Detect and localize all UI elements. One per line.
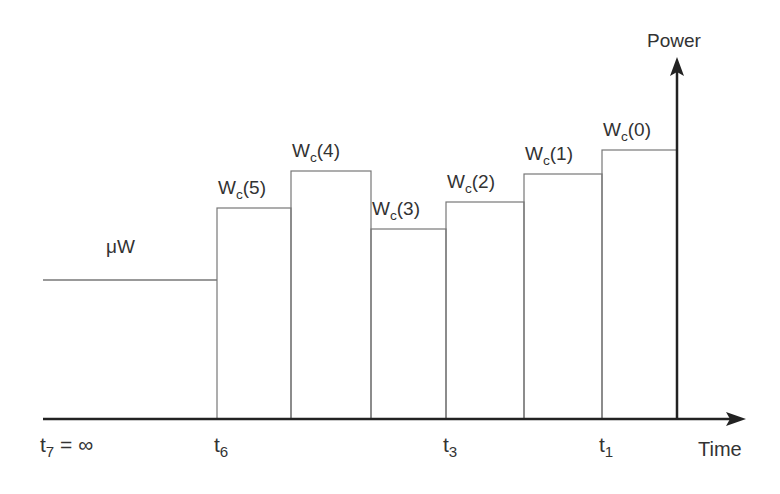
baseline-power-label: μW [106, 236, 135, 257]
bar-label-wc0: Wc(0) [603, 119, 651, 144]
bar-label-wc5: Wc(5) [218, 177, 266, 202]
time-tick-t1: t1 [599, 433, 613, 460]
power-time-diagram: μWWc(5)Wc(4)Wc(3)Wc(2)Wc(1)Wc(0)TimePowe… [0, 0, 780, 494]
power-bar-0 [602, 150, 677, 419]
time-tick-t6: t6 [214, 433, 228, 460]
power-axis-label: Power [647, 30, 702, 51]
time-tick-t3: t3 [443, 433, 457, 460]
bar-label-wc1: Wc(1) [525, 143, 573, 168]
time-tick-t7: t7 = ∞ [40, 433, 93, 460]
diagram-svg: μWWc(5)Wc(4)Wc(3)Wc(2)Wc(1)Wc(0)TimePowe… [0, 0, 780, 494]
power-bar-5 [217, 208, 291, 419]
power-bar-3 [371, 229, 446, 419]
time-axis-label: Time [698, 438, 742, 460]
power-bar-4 [291, 171, 371, 419]
bar-label-wc2: Wc(2) [447, 171, 495, 196]
bar-label-wc4: Wc(4) [292, 140, 340, 165]
power-bar-2 [446, 202, 524, 419]
bar-label-wc3: Wc(3) [372, 198, 420, 223]
power-bar-1 [524, 174, 602, 419]
